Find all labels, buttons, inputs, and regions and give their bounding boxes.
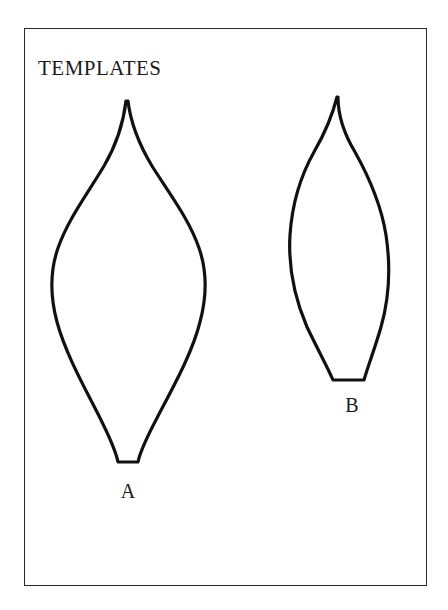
shape-label-b: B <box>332 394 372 417</box>
templates-drawing <box>0 0 448 610</box>
shape-label-a: A <box>108 480 148 503</box>
template-shape-b <box>290 97 389 380</box>
figure-page: TEMPLATES A B <box>0 0 448 610</box>
template-shape-a <box>52 101 205 462</box>
